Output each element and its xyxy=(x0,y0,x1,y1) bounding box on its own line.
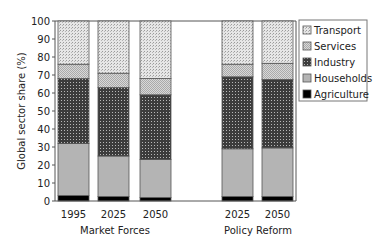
x-tick-label: 1995 xyxy=(61,209,86,220)
legend-swatch-households xyxy=(303,74,311,82)
bar-4-2025 xyxy=(222,21,253,201)
segment-industry xyxy=(58,79,89,144)
bar-2-2025 xyxy=(98,21,129,201)
segment-households xyxy=(222,149,253,197)
bar-3-2050 xyxy=(140,21,171,201)
segment-services xyxy=(222,64,253,77)
legend-label-services: Services xyxy=(314,41,356,52)
segment-services xyxy=(58,64,89,78)
legend-swatch-industry xyxy=(303,58,311,66)
x-axis: 19952025205020252050Market ForcesPolicy … xyxy=(55,201,296,236)
segment-transport xyxy=(222,21,253,64)
y-axis: 0102030405060708090100 xyxy=(31,16,55,207)
y-tick-label: 80 xyxy=(37,52,50,63)
segment-industry xyxy=(262,80,293,148)
y-tick-label: 40 xyxy=(37,124,50,135)
segment-agriculture xyxy=(98,197,129,202)
segment-services xyxy=(140,79,171,95)
segment-agriculture xyxy=(140,197,171,201)
segment-transport xyxy=(58,21,89,64)
group-label-market-forces: Market Forces xyxy=(80,225,150,236)
y-tick-label: 70 xyxy=(37,70,50,81)
x-tick-label: 2050 xyxy=(265,209,290,220)
bar-1-1995 xyxy=(58,21,89,201)
legend-label-transport: Transport xyxy=(313,25,361,36)
segment-agriculture xyxy=(222,197,253,202)
legend-label-agriculture: Agriculture xyxy=(314,89,369,100)
segment-households xyxy=(262,148,293,197)
y-tick-label: 90 xyxy=(37,34,50,45)
bars xyxy=(58,21,293,201)
group-label-policy-reform: Policy Reform xyxy=(224,225,292,236)
plot-frame xyxy=(55,21,296,201)
legend-swatch-transport xyxy=(303,26,311,34)
segment-industry xyxy=(222,77,253,149)
segment-transport xyxy=(140,21,171,79)
x-tick-label: 2025 xyxy=(101,209,126,220)
segment-agriculture xyxy=(58,196,89,201)
bar-5-2050 xyxy=(262,21,293,201)
segment-transport xyxy=(98,21,129,73)
legend-swatch-agriculture xyxy=(303,90,311,98)
segment-households xyxy=(58,143,89,195)
y-tick-label: 50 xyxy=(37,106,50,117)
y-tick-label: 0 xyxy=(44,196,50,207)
y-tick-label: 100 xyxy=(31,16,50,27)
y-tick-label: 60 xyxy=(37,88,50,99)
segment-households xyxy=(140,160,171,198)
legend-label-households: Households xyxy=(314,73,372,84)
segment-households xyxy=(98,156,129,197)
y-axis-title: Global sector share (%) xyxy=(16,52,27,170)
x-tick-label: 2050 xyxy=(143,209,168,220)
segment-services xyxy=(98,73,129,87)
y-tick-label: 10 xyxy=(37,178,50,189)
legend-swatch-services xyxy=(303,42,311,50)
segment-industry xyxy=(98,88,129,156)
stacked-bar-chart: 0102030405060708090100 19952025205020252… xyxy=(0,0,392,248)
x-tick-label: 2025 xyxy=(225,209,250,220)
legend-label-industry: Industry xyxy=(314,57,355,68)
y-tick-label: 30 xyxy=(37,142,50,153)
segment-transport xyxy=(262,21,293,63)
segment-services xyxy=(262,63,293,79)
y-tick-label: 20 xyxy=(37,160,50,171)
legend: TransportServicesIndustryHouseholdsAgric… xyxy=(299,20,372,101)
segment-agriculture xyxy=(262,197,293,202)
segment-industry xyxy=(140,95,171,160)
